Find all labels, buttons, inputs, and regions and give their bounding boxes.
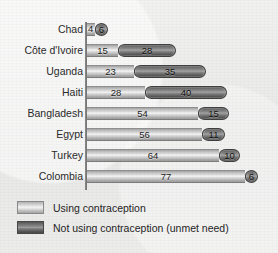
- bar-segment-using[interactable]: 77: [87, 170, 245, 183]
- category-label: Côte d'Ivoire: [24, 43, 83, 58]
- legend-label: Using contraception: [53, 202, 146, 214]
- stacked-bar-chart: Chad 6 4 Côte d'Ivoire 15 28: [0, 14, 278, 192]
- category-label: Chad: [58, 22, 83, 37]
- value-label-unmet: 10: [224, 151, 235, 161]
- legend-swatch-unmet-icon: [17, 221, 44, 234]
- value-label-unmet: 11: [209, 130, 219, 140]
- chart-row: Bangladesh 54 15: [0, 106, 278, 121]
- category-label: Turkey: [51, 148, 83, 163]
- value-label-using: 15: [97, 46, 108, 56]
- value-label-using: 28: [111, 88, 122, 98]
- chart-row: Colombia 77 6: [0, 169, 278, 184]
- bar-segment-unmet[interactable]: 28: [118, 44, 176, 57]
- value-label-unmet: 15: [208, 109, 219, 119]
- value-label-unmet: 6: [99, 25, 104, 35]
- bar-group: 64 10: [87, 149, 240, 162]
- bar-segment-using[interactable]: 15: [87, 44, 118, 57]
- bar-group: 23 35: [87, 65, 206, 78]
- bar-segment-unmet[interactable]: 35: [134, 65, 206, 78]
- bar-segment-using[interactable]: 64: [87, 149, 219, 162]
- bar-segment-using[interactable]: 23: [87, 65, 134, 78]
- bar-segment-unmet[interactable]: 6: [245, 170, 258, 183]
- category-label: Haiti: [62, 85, 83, 100]
- bar-segment-unmet[interactable]: 40: [145, 86, 227, 99]
- bar-group: 15 28: [87, 44, 176, 57]
- value-label-unmet: 28: [142, 46, 153, 56]
- value-label-using: 56: [139, 130, 150, 140]
- value-label-using: 54: [137, 109, 148, 119]
- category-label: Uganda: [46, 64, 83, 79]
- chart-row: Haiti 28 40: [0, 85, 278, 100]
- chart-legend: Using contraception Not using contracept…: [17, 199, 261, 239]
- bar-group: 28 40: [87, 86, 227, 99]
- legend-item-unmet[interactable]: Not using contraception (unmet need): [17, 219, 261, 236]
- bar-group: 54 15: [87, 107, 229, 120]
- bar-group: 77 6: [87, 170, 258, 183]
- bar-segment-using[interactable]: 56: [87, 128, 202, 141]
- legend-item-using[interactable]: Using contraception: [17, 199, 261, 216]
- legend-label: Not using contraception (unmet need): [53, 222, 229, 234]
- category-label: Colombia: [39, 169, 83, 184]
- bar-segment-using[interactable]: 28: [87, 86, 145, 99]
- value-label-using: 23: [105, 67, 116, 77]
- category-label: Egypt: [56, 127, 83, 142]
- bar-segment-unmet[interactable]: 11: [202, 128, 225, 141]
- bar-segment-unmet[interactable]: 6: [95, 23, 108, 36]
- value-label-unmet: 35: [165, 67, 176, 77]
- bar-segment-unmet[interactable]: 15: [198, 107, 229, 120]
- chart-row: Chad 6 4: [0, 22, 278, 37]
- bar-group: 56 11: [87, 128, 225, 141]
- value-label-unmet: 6: [249, 172, 254, 182]
- bar-segment-unmet[interactable]: 10: [219, 149, 240, 162]
- category-label: Bangladesh: [28, 106, 83, 121]
- value-label-unmet: 40: [181, 88, 192, 98]
- value-label-using: 4: [88, 22, 93, 35]
- value-label-using: 64: [148, 151, 159, 161]
- chart-row: Egypt 56 11: [0, 127, 278, 142]
- value-label-using: 77: [161, 172, 172, 182]
- chart-row: Turkey 64 10: [0, 148, 278, 163]
- chart-page: Chad 6 4 Côte d'Ivoire 15 28: [0, 0, 278, 253]
- chart-row: Côte d'Ivoire 15 28: [0, 43, 278, 58]
- bar-segment-using[interactable]: 54: [87, 107, 198, 120]
- legend-swatch-using-icon: [17, 201, 44, 214]
- chart-row: Uganda 23 35: [0, 64, 278, 79]
